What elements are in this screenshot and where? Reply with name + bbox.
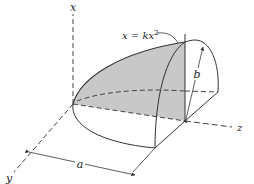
x-axis-label: x [70, 1, 77, 14]
z-axis-label: z [236, 122, 243, 133]
equation-leader [157, 33, 178, 43]
shaded-parabolic-region [73, 42, 185, 121]
dim-a-label: a [77, 158, 84, 171]
y-axis-label: y [5, 172, 13, 184]
geometry-svg: x y z x = kx2 a b [0, 0, 254, 184]
end-cap-base-dashed [185, 91, 218, 92]
base-front-edge [155, 121, 185, 148]
y-axis [14, 104, 73, 172]
top-ridge [185, 40, 195, 42]
end-cap-slant-edge [185, 92, 218, 121]
dim-a-extension [133, 148, 155, 172]
z-axis [185, 121, 232, 127]
dim-b-label: b [193, 68, 200, 81]
diagram-figure: x y z x = kx2 a b [0, 0, 254, 184]
equation-label: x = kx2 [122, 29, 159, 41]
dim-b-line [186, 47, 203, 119]
